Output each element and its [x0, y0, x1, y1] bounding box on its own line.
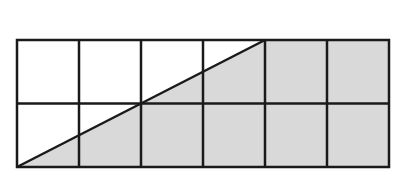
grid-diagram	[0, 0, 402, 176]
